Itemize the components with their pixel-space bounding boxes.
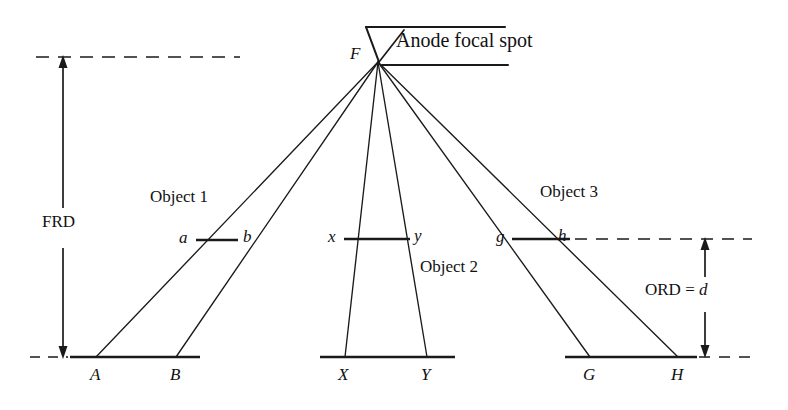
ray-F-to-A	[96, 62, 378, 357]
object-3-point-g-label: g	[496, 228, 505, 245]
focal-point-label-F: F	[350, 45, 360, 62]
ray-F-to-Y	[378, 62, 427, 357]
object-2-label: Object 2	[420, 258, 478, 275]
projection-point-H-label: H	[671, 366, 683, 383]
projection-point-B-label: B	[170, 366, 180, 383]
frd-label: FRD	[42, 213, 75, 230]
frd-dimension-arrow	[59, 55, 68, 359]
ray-F-to-X	[345, 62, 378, 357]
xray-beam-rays	[96, 62, 678, 357]
object-1-label: Object 1	[150, 188, 208, 205]
ray-F-to-H	[378, 62, 678, 357]
object-3-label: Object 3	[540, 183, 598, 200]
ray-F-to-G	[378, 62, 590, 357]
projection-point-X-label: X	[338, 366, 348, 383]
ray-F-to-B	[176, 62, 378, 357]
object-2-point-y-label: y	[414, 227, 422, 244]
object-3-point-h-label: h	[558, 227, 567, 244]
ord-label: ORD = d	[645, 281, 707, 298]
projection-point-Y-label: Y	[421, 366, 430, 383]
anode-focal-spot-label: Anode focal spot	[396, 30, 533, 50]
ord-label-value: d	[699, 280, 708, 299]
ord-label-text: ORD =	[645, 280, 699, 299]
object-1-point-b-label: b	[243, 228, 252, 245]
projection-point-A-label: A	[90, 366, 100, 383]
object-bars	[196, 239, 570, 240]
object-2-point-x-label: x	[328, 228, 336, 245]
radiography-geometry-figure	[0, 0, 788, 410]
object-1-point-a-label: a	[179, 229, 188, 246]
diagram-canvas: Anode focal spot F FRD ORD = d Object 1 …	[0, 0, 788, 410]
projection-point-G-label: G	[583, 366, 595, 383]
